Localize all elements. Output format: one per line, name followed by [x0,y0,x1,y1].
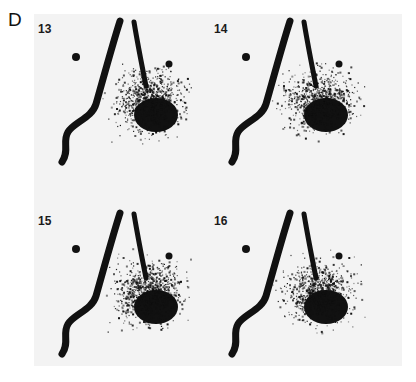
micrograph-image [210,6,394,182]
image-panel-16: 16 [210,198,394,374]
image-panel-14: 14 [210,6,394,182]
micrograph-image [34,6,218,182]
micrograph-image [210,198,394,374]
micrograph-image [34,198,218,374]
image-panel-13: 13 [34,6,218,182]
panel-number: 14 [214,22,227,36]
figure-panel-label: D [8,9,22,31]
panel-number: 13 [38,22,51,36]
panel-number: 15 [38,214,51,228]
image-panel-15: 15 [34,198,218,374]
panel-number: 16 [214,214,227,228]
